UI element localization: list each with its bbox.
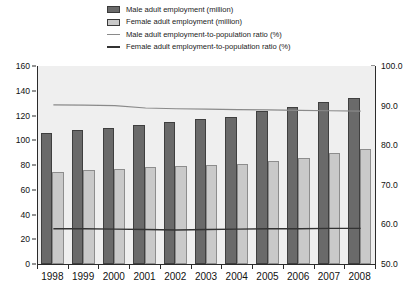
y-axis-tick-label: 20 [0,234,30,244]
y-axis-tick-label: 60 [0,185,30,195]
x-axis-tick-label: 2003 [195,271,217,282]
y2-axis-tick-label: 90.0 [381,101,398,111]
y-axis-tick-mark [32,115,36,116]
y-axis-tick-mark [32,140,36,141]
legend-swatch-male-bar-icon [107,6,120,13]
line-female-ratio [53,228,360,230]
legend-label-female-line: Female adult employment-to-population ra… [126,43,291,51]
y-axis-tick-label: 80 [0,160,30,170]
x-axis-tick-mark [68,265,69,269]
y-axis-tick-mark [32,90,36,91]
plot-area [37,66,376,265]
x-axis-tick-label: 2004 [226,271,248,282]
x-axis-tick-mark [129,265,130,269]
y2-axis-tick-label: 70.0 [381,180,398,190]
x-axis-tick-mark [375,265,376,269]
chart-figure: Male adult employment (million) Female a… [0,0,411,291]
y-axis-tick-mark [32,66,36,67]
x-axis-tick-mark [252,265,253,269]
legend-label-female-bar: Female adult employment (million) [126,18,242,26]
y-axis-tick-mark [32,264,36,265]
y2-axis-tick-label: 50.0 [381,259,398,269]
legend-item-male-line: Male adult employment-to-population rati… [107,29,291,40]
chart-legend: Male adult employment (million) Female a… [107,4,291,54]
x-axis-tick-label: 1999 [72,271,94,282]
legend-item-female-line: Female adult employment-to-population ra… [107,42,291,53]
y2-axis-tick-label: 100.0 [381,61,403,71]
x-axis-tick-mark [98,265,99,269]
x-axis-tick-label: 2002 [164,271,186,282]
y-axis-tick-mark [32,239,36,240]
x-axis-tick-label: 1998 [41,271,63,282]
legend-item-female-bar: Female adult employment (million) [107,17,291,28]
legend-line-female-icon [107,44,120,51]
x-axis-tick-label: 2001 [133,271,155,282]
legend-label-male-line: Male adult employment-to-population rati… [126,31,282,39]
y-axis-tick-label: 120 [0,111,30,121]
x-axis-tick-label: 2007 [318,271,340,282]
y-axis-tick-mark [32,165,36,166]
y-axis-tick-label: 40 [0,210,30,220]
right-axis-line [375,66,376,265]
y-axis-tick-mark [32,214,36,215]
y-axis-tick-mark [32,189,36,190]
x-axis-tick-label: 2005 [256,271,278,282]
x-axis-tick-mark [344,265,345,269]
x-axis-tick-mark [160,265,161,269]
legend-label-male-bar: Male adult employment (million) [126,6,233,14]
legend-line-male-icon [107,31,120,38]
legend-swatch-female-bar-icon [107,19,120,26]
line-male-ratio [53,105,360,111]
x-axis-tick-mark [221,265,222,269]
y-axis-tick-label: 140 [0,86,30,96]
y-axis-tick-label: 0 [0,259,30,269]
line-layer [38,66,376,264]
y-axis-tick-label: 100 [0,135,30,145]
x-axis-tick-label: 2000 [103,271,125,282]
x-axis-tick-mark [37,265,38,269]
legend-item-male-bar: Male adult employment (million) [107,4,291,15]
x-axis-tick-mark [314,265,315,269]
y2-axis-tick-label: 60.0 [381,219,398,229]
x-axis-tick-mark [191,265,192,269]
x-axis-tick-label: 2008 [349,271,371,282]
y-axis-tick-label: 160 [0,61,30,71]
y2-axis-tick-label: 80.0 [381,140,398,150]
x-axis-tick-mark [283,265,284,269]
x-axis-tick-label: 2006 [287,271,309,282]
